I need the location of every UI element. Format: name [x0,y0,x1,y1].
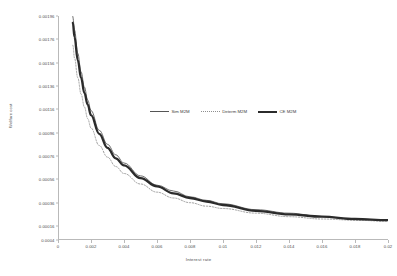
y-tick-mark [56,62,59,63]
y-tick-mark [56,109,59,110]
y-tick-mark [56,39,59,40]
series-line [73,23,388,220]
x-tick-mark [58,240,59,243]
series-curves [58,16,388,240]
legend-label: Sim M2M [172,109,190,114]
x-tick-mark [322,240,323,243]
x-tick-mark [223,240,224,243]
series-line [73,16,388,220]
y-tick-mark [56,16,59,17]
x-tick-mark [157,240,158,243]
x-tick-mark [355,240,356,243]
y-tick-mark [56,156,59,157]
y-tick-mark [56,226,59,227]
y-tick-mark [56,86,59,87]
legend-item[interactable]: Sim M2M [150,109,190,114]
legend-item[interactable]: CE M2M [258,109,296,114]
x-tick-mark [289,240,290,243]
series-line [73,45,388,221]
y-axis-title: Welfare cost [8,48,13,128]
legend-item[interactable]: Determ M2M [201,109,247,114]
x-tick-mark [91,240,92,243]
y-axis-line [58,16,59,240]
y-tick-mark [56,132,59,133]
chart-figure: Welfare cost 0.001960.001760.001560.0013… [0,0,397,276]
x-tick-mark [124,240,125,243]
x-axis-title: Interest rate [0,257,397,262]
x-tick-mark [388,240,389,243]
y-tick-mark [56,202,59,203]
legend-swatch-icon [258,111,277,113]
legend-swatch-icon [201,111,220,112]
x-tick-mark [190,240,191,243]
legend-label: Determ M2M [222,109,247,114]
chart-legend: Sim M2MDeterm M2MCE M2M [150,109,296,114]
x-tick-mark [256,240,257,243]
legend-label: CE M2M [280,109,297,114]
plot-area: 0.001960.001760.001560.001360.001160.000… [58,16,388,240]
y-tick-mark [56,179,59,180]
legend-swatch-icon [150,111,169,112]
